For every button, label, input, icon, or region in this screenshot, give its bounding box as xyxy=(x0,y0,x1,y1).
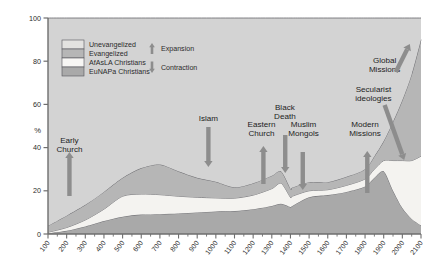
legend-label-eunapa-christians: EuNAPa Christians xyxy=(89,68,150,76)
legend-swatch-eunapa-christians xyxy=(62,67,84,76)
legend-label-unevangelized: Unevangelized xyxy=(89,41,136,49)
legend-swatch-evangelized xyxy=(62,49,84,58)
y-tick-label: 20 xyxy=(33,186,41,195)
annotation-label: Secularistideologies xyxy=(355,85,392,103)
annotation-label-line: Mongols xyxy=(288,129,319,138)
annotation-label: MuslimMongols xyxy=(288,120,319,138)
annotation-label-line: ideologies xyxy=(355,94,391,103)
y-tick-label: 40 xyxy=(33,143,41,152)
annotation-label-line: Eastern xyxy=(248,120,276,129)
chart-figure: 020406080100%100200300400500600700800900… xyxy=(0,0,434,270)
legend-label-afasla-christians: AfAsLA Christians xyxy=(89,59,146,67)
annotation-label-line: Islam xyxy=(199,114,219,123)
annotation-label-line: Early xyxy=(60,136,79,145)
annotation-label-line: Church xyxy=(248,129,274,138)
y-tick-label: 0 xyxy=(37,230,41,239)
legend-marker-label-contraction: Contraction xyxy=(161,64,197,72)
y-tick-label: 80 xyxy=(33,57,41,66)
annotation-label: EarlyChurch xyxy=(56,136,82,154)
annotation-label: BlackDeath xyxy=(274,103,296,121)
annotation-label-line: Muslim xyxy=(291,120,317,129)
annotation-label-line: Secularist xyxy=(356,85,392,94)
y-tick-label: 60 xyxy=(33,100,41,109)
annotation-label-line: Modern xyxy=(351,120,378,129)
legend-marker-label-expansion: Expansion xyxy=(161,45,194,53)
legend-swatch-afasla-christians xyxy=(62,58,84,67)
annotation-label-line: Black xyxy=(275,103,296,112)
annotation-label-line: Global xyxy=(373,56,397,65)
legend-swatch-unevangelized xyxy=(62,40,84,49)
annotation-label-line: Missions xyxy=(349,129,380,138)
legend-label-evangelized: Evangelized xyxy=(89,50,128,58)
stacked-area-chart: 020406080100%100200300400500600700800900… xyxy=(0,0,434,270)
annotation-label: EasternChurch xyxy=(248,120,276,138)
annotation-label: Islam xyxy=(199,114,219,123)
y-axis-unit-label: % xyxy=(34,126,41,135)
annotation-label: ModernMissions xyxy=(349,120,380,138)
y-tick-label: 100 xyxy=(29,14,41,23)
